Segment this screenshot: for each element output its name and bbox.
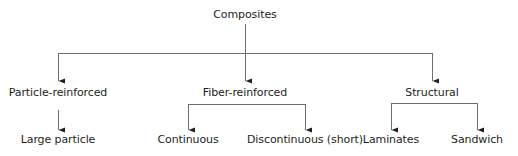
node-fiber-reinforced: Fiber-reinforced — [203, 86, 287, 99]
node-large-particle: Large particle — [21, 133, 96, 146]
node-structural: Structural — [405, 86, 458, 99]
node-particle-reinforced: Particle-reinforced — [9, 86, 107, 99]
node-composites: Composites — [213, 8, 276, 21]
node-sandwich: Sandwich — [451, 133, 503, 146]
node-discontinuous-short: Discontinuous (short) — [247, 133, 363, 146]
node-continuous: Continuous — [157, 133, 218, 146]
node-laminates: Laminates — [363, 133, 419, 146]
